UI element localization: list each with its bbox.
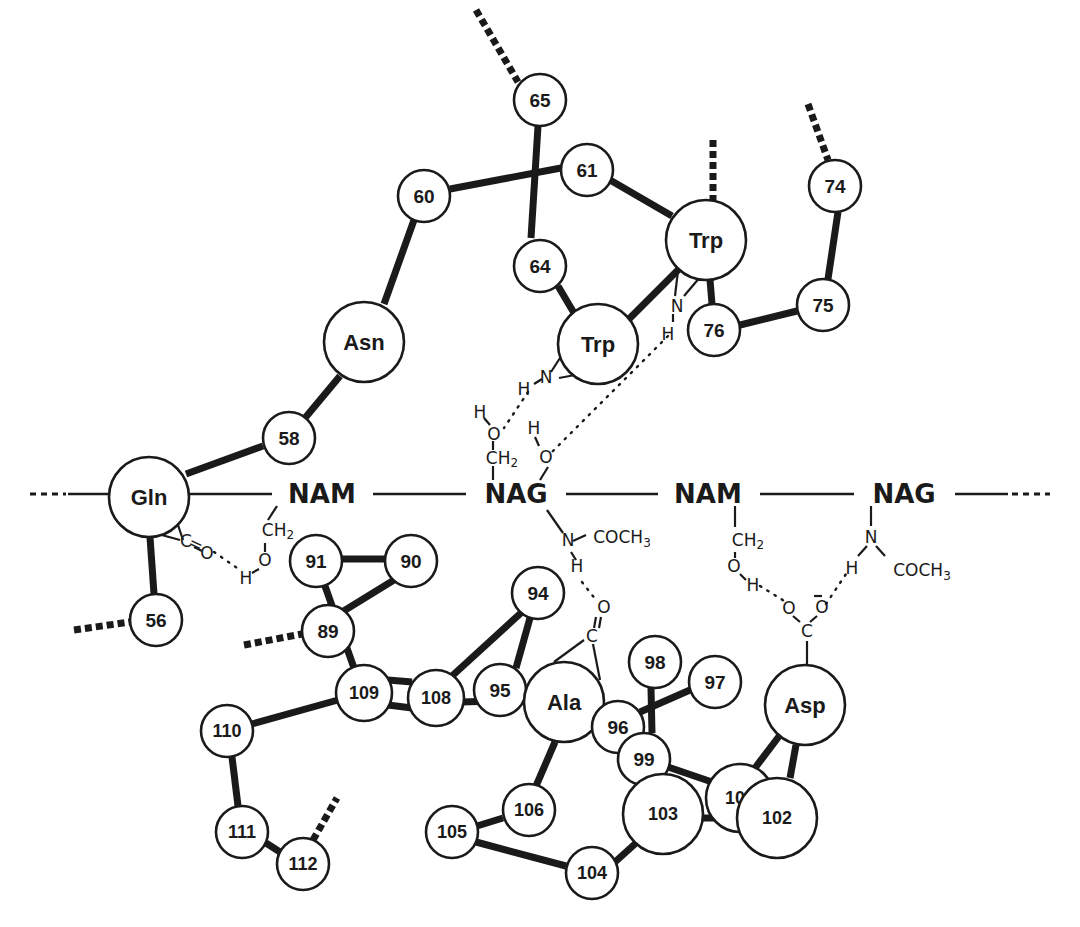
residue-asn59: Asn xyxy=(324,302,404,382)
residue-label: 60 xyxy=(413,186,434,207)
atom-n: N xyxy=(671,296,684,316)
atom-o: O xyxy=(487,424,500,444)
atom-o: O xyxy=(727,556,740,576)
atom-h: H xyxy=(846,558,859,578)
chain-stub xyxy=(313,798,337,840)
residue-label: 97 xyxy=(704,672,725,693)
residue-label: 96 xyxy=(607,717,628,738)
residue-label: 99 xyxy=(633,749,654,770)
residue-label: Ala xyxy=(547,690,582,715)
atom-h: H xyxy=(240,568,253,588)
residue-r106: 106 xyxy=(503,784,555,836)
residue-r75: 75 xyxy=(797,279,849,331)
residue-r60: 60 xyxy=(398,170,450,222)
residue-trp62: Trp xyxy=(558,304,638,384)
residue-r89: 89 xyxy=(302,605,354,657)
substituent-lines xyxy=(158,262,885,680)
residue-r94: 94 xyxy=(512,567,564,619)
residue-r112: 112 xyxy=(277,838,329,890)
residue-label: 111 xyxy=(228,822,256,842)
sugar-nag-1: NAG xyxy=(484,479,547,509)
residue-r74: 74 xyxy=(809,160,861,212)
hbond-nag1-ala xyxy=(582,582,596,600)
atom-n: N xyxy=(562,530,575,550)
hbond-nag2-asp xyxy=(826,574,846,604)
residue-label: 95 xyxy=(489,680,511,701)
atom-c: C xyxy=(801,621,813,641)
residue-label: 103 xyxy=(648,804,678,824)
residue-r64: 64 xyxy=(514,240,566,292)
residue-r56: 56 xyxy=(130,594,182,646)
atom-n: N xyxy=(865,527,878,547)
sugar-nam-2: NAM xyxy=(674,479,742,509)
residue-r98: 98 xyxy=(629,636,681,688)
residue-r76: 76 xyxy=(688,304,740,356)
residue-label: 110 xyxy=(212,721,241,741)
atom-o: O xyxy=(258,550,271,570)
sugar-nam-1: NAM xyxy=(288,479,356,509)
residue-trp63: Trp xyxy=(666,200,746,280)
residue-r102: 102 xyxy=(737,778,817,858)
residue-label: 104 xyxy=(577,863,607,883)
atom-ch2: CH2 xyxy=(486,448,518,470)
atom-o: O xyxy=(200,543,213,563)
chain-stub xyxy=(74,622,130,630)
residue-label: 75 xyxy=(812,295,834,316)
residue-r97: 97 xyxy=(689,656,741,708)
residue-r111: 111 xyxy=(216,806,268,858)
residue-label: 102 xyxy=(762,808,792,828)
hbond-gln-nam1 xyxy=(214,552,240,570)
residue-gln57: Gln xyxy=(109,457,189,537)
residue-r65: 65 xyxy=(514,74,566,126)
residue-r90: 90 xyxy=(385,535,437,587)
residue-r104: 104 xyxy=(566,847,618,899)
atom-c: C xyxy=(586,626,598,646)
chain-stub xyxy=(808,104,828,160)
residue-r108: 108 xyxy=(408,670,464,726)
residue-r105: 105 xyxy=(426,806,478,858)
residue-asp52: Asp xyxy=(765,665,845,745)
atom-o: O xyxy=(782,598,795,618)
residue-label: 76 xyxy=(703,320,724,341)
residue-r110: 110 xyxy=(201,705,253,757)
atom-h: H xyxy=(571,556,584,576)
residue-r61: 61 xyxy=(561,144,613,196)
residue-label: Trp xyxy=(689,228,723,253)
residue-label: 109 xyxy=(349,683,379,703)
residue-label: 89 xyxy=(317,621,338,642)
residue-r109: 109 xyxy=(336,665,392,721)
atom-h: H xyxy=(747,575,760,595)
sugar-nag-2: NAG xyxy=(872,479,935,509)
lysozyme-active-site-diagram: 65616064TrpTrp767574Asn58Gln569190891091… xyxy=(0,0,1080,927)
atom-h: H xyxy=(474,402,487,422)
residue-bonds xyxy=(74,10,838,866)
residue-label: Asn xyxy=(343,330,385,355)
chain-stub xyxy=(476,10,518,82)
residue-label: 64 xyxy=(529,256,551,277)
residue-label: 106 xyxy=(514,800,544,820)
residue-label: 61 xyxy=(576,160,598,181)
residue-label: Asp xyxy=(784,693,826,718)
residue-label: 98 xyxy=(644,652,665,673)
residue-label: 65 xyxy=(529,90,551,111)
atom-o: O xyxy=(539,447,552,467)
residue-r58: 58 xyxy=(263,412,315,464)
chain-stub xyxy=(244,634,302,645)
residue-r95: 95 xyxy=(474,664,526,716)
atom-coch3: COCH3 xyxy=(893,560,951,583)
residue-label: 108 xyxy=(421,688,451,708)
atom-coch3: COCH3 xyxy=(593,527,651,550)
atom-h: H xyxy=(518,379,531,399)
residue-label: 105 xyxy=(437,822,467,842)
residue-label: 58 xyxy=(278,428,299,449)
residue-label: 91 xyxy=(305,551,327,572)
atom-o-minus: O xyxy=(815,597,828,617)
atom-h: H xyxy=(662,324,675,344)
atom-ch2: CH2 xyxy=(262,520,294,542)
residue-r103: 103 xyxy=(623,774,703,854)
residue-label: 56 xyxy=(145,610,166,631)
atom-ch2: CH2 xyxy=(732,530,764,552)
residue-label: 74 xyxy=(824,176,846,197)
residue-r91: 91 xyxy=(290,535,342,587)
residue-label: 90 xyxy=(400,551,421,572)
